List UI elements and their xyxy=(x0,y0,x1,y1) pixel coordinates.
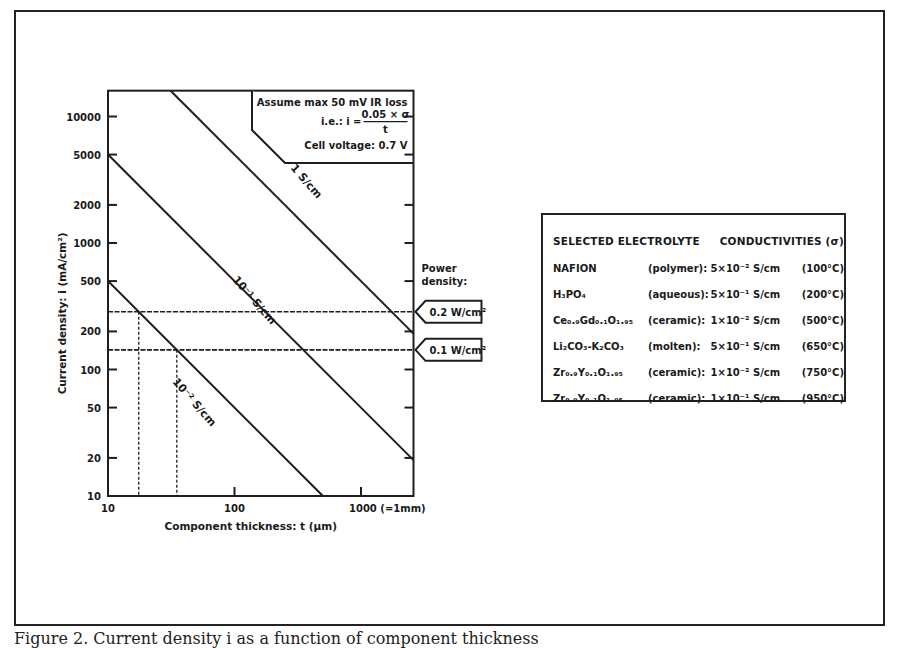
x-axis-title: Component thickness: t (µm) xyxy=(164,520,337,532)
material: Li₂CO₃-K₂CO₃ xyxy=(553,341,648,352)
table-row: Zr₀.₉Y₀.₁O₁.₉₅ (ceramic): 1×10⁻¹ S/cm (9… xyxy=(553,385,844,411)
material-type: (aqueous): xyxy=(648,289,711,300)
temperature: (200°C) xyxy=(802,289,844,300)
material: Ce₀.₉Gd₀.₁O₁.₉₅ xyxy=(553,315,648,326)
x-tick-label: 1000 (=1mm) xyxy=(349,503,426,514)
material-type: (polymer): xyxy=(648,263,711,274)
electrolyte-conductivity-table: SELECTED ELECTROLYTE CONDUCTIVITIES (σ) … xyxy=(541,213,846,402)
assumption-text: Assume max 50 mV IR loss xyxy=(257,97,408,108)
temperature: (100°C) xyxy=(802,263,844,274)
conductivity-value: 1×10⁻² S/cm xyxy=(711,367,802,378)
material: NAFION xyxy=(553,263,648,274)
power-density-tag-label: 0.2 W/cm² xyxy=(429,307,486,318)
material: H₃PO₄ xyxy=(553,289,648,300)
header-electrolyte: ELECTROLYTE xyxy=(618,235,720,247)
material: Zr₀.₉Y₀.₁O₁.₉₅ xyxy=(553,393,648,404)
conductivity-line xyxy=(108,281,323,496)
formula-denominator: t xyxy=(383,124,388,135)
power-density-title: density: xyxy=(421,276,467,287)
cell-voltage-text: Cell voltage: 0.7 V xyxy=(304,140,407,151)
y-tick-label: 100 xyxy=(80,365,101,376)
conductivity-value: 1×10⁻¹ S/cm xyxy=(711,393,802,404)
table-row: Zr₀.₉Y₀.₁O₁.₉₅ (ceramic): 1×10⁻² S/cm (7… xyxy=(553,359,844,385)
y-tick-label: 50 xyxy=(87,403,101,414)
temperature: (500°C) xyxy=(802,315,844,326)
conductivity-line-label: 1 S/cm xyxy=(288,161,325,201)
y-tick-label: 5000 xyxy=(73,150,101,161)
material-type: (molten): xyxy=(648,341,711,352)
table-row: Ce₀.₉Gd₀.₁O₁.₉₅ (ceramic): 1×10⁻² S/cm (… xyxy=(553,307,844,333)
material-type: (ceramic): xyxy=(648,367,711,378)
formula-prefix: i.e.: i = xyxy=(321,116,362,127)
y-tick-label: 200 xyxy=(80,326,101,337)
power-density-title: Power xyxy=(421,263,456,274)
temperature: (950°C) xyxy=(802,393,844,404)
material-type: (ceramic): xyxy=(648,315,711,326)
y-tick-label: 10000 xyxy=(66,112,101,123)
power-density-tag-label: 0.1 W/cm² xyxy=(429,345,486,356)
y-tick-label: 20 xyxy=(87,453,101,464)
table-row: NAFION (polymer): 5×10⁻² S/cm (100°C) xyxy=(553,255,844,281)
table-header: SELECTED ELECTROLYTE CONDUCTIVITIES (σ) xyxy=(553,227,844,255)
table-row: Li₂CO₃-K₂CO₃ (molten): 5×10⁻¹ S/cm (650°… xyxy=(553,333,844,359)
conductivity-line-label: 10⁻¹ S/cm xyxy=(230,273,279,327)
header-selected: SELECTED xyxy=(553,235,618,247)
y-axis-title: Current density: i (mA/cm²) xyxy=(56,232,68,394)
y-tick-label: 10 xyxy=(87,491,101,502)
conductivity-value: 5×10⁻¹ S/cm xyxy=(711,341,802,352)
y-tick-label: 500 xyxy=(80,276,101,287)
temperature: (750°C) xyxy=(802,367,844,378)
y-tick-label: 2000 xyxy=(73,200,101,211)
temperature: (650°C) xyxy=(802,341,844,352)
x-tick-label: 100 xyxy=(224,503,245,514)
x-tick-label: 10 xyxy=(101,503,115,514)
conductivity-value: 1×10⁻² S/cm xyxy=(711,315,802,326)
conductivity-value: 5×10⁻² S/cm xyxy=(711,263,802,274)
table-row: H₃PO₄ (aqueous): 5×10⁻¹ S/cm (200°C) xyxy=(553,281,844,307)
header-conductivities: CONDUCTIVITIES (σ) xyxy=(720,235,844,247)
conductivity-value: 5×10⁻¹ S/cm xyxy=(711,289,802,300)
material: Zr₀.₉Y₀.₁O₁.₉₅ xyxy=(553,367,648,378)
formula-numerator: 0.05 × σ xyxy=(362,109,410,120)
material-type: (ceramic): xyxy=(648,393,711,404)
figure-caption: Figure 2. Current density i as a functio… xyxy=(14,629,539,648)
y-tick-label: 1000 xyxy=(73,238,101,249)
